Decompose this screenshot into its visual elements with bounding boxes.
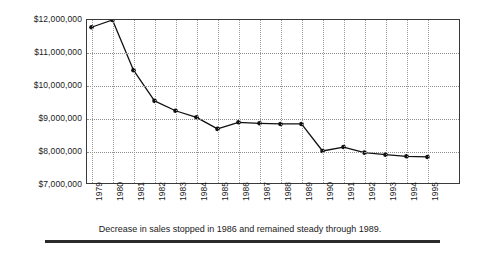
x-axis-tick-label: 1985 [221,182,230,222]
y-axis-tick-label: $8,000,000 [0,147,82,156]
x-axis-tick-label: 1983 [179,182,188,222]
x-axis-tick-label: 1992 [368,182,377,222]
x-axis-tick-label: 1994 [410,182,419,222]
data-point-marker [110,20,115,22]
x-axis-tick-label: 1982 [158,182,167,222]
data-point-marker [236,120,241,125]
data-point-marker [299,122,304,127]
data-point-marker [425,155,430,160]
y-axis-tick-label: $9,000,000 [0,114,82,123]
bottom-divider [45,240,440,243]
chart-figure: $12,000,000$11,000,000$10,000,000$9,000,… [0,0,480,253]
y-axis-tick-label: $12,000,000 [0,15,82,24]
x-axis: 1979198019811982198319841985198619871988… [86,186,460,226]
series-line-sales [87,20,460,184]
data-point-marker [362,150,367,155]
x-axis-tick-label: 1990 [326,182,335,222]
data-point-marker [173,108,178,113]
data-point-marker [89,25,94,30]
x-axis-tick-label: 1980 [116,182,125,222]
x-axis-tick-label: 1979 [95,182,104,222]
x-axis-tick-label: 1984 [200,182,209,222]
x-axis-tick-label: 1987 [263,182,272,222]
x-axis-tick-label: 1988 [284,182,293,222]
y-axis-tick-label: $7,000,000 [0,180,82,189]
y-axis-tick-label: $10,000,000 [0,81,82,90]
data-point-marker [194,115,199,120]
x-axis-tick-label: 1993 [389,182,398,222]
series-path [92,20,428,157]
data-point-marker [278,122,283,127]
data-point-marker [341,145,346,150]
x-axis-tick-label: 1986 [242,182,251,222]
data-point-marker [257,121,262,126]
data-point-marker [383,152,388,157]
x-axis-tick-label: 1989 [305,182,314,222]
data-point-marker [215,127,220,132]
x-axis-tick-label: 1981 [137,182,146,222]
data-point-marker [404,154,409,159]
data-point-marker [152,99,157,104]
x-axis-tick-label: 1995 [431,182,440,222]
data-point-marker [131,68,136,73]
y-axis: $12,000,000$11,000,000$10,000,000$9,000,… [0,0,82,253]
data-point-marker [320,149,325,154]
plot-area [86,19,460,184]
y-axis-tick-label: $11,000,000 [0,48,82,57]
chart-caption: Decrease in sales stopped in 1986 and re… [0,224,480,235]
x-axis-tick-label: 1991 [347,182,356,222]
